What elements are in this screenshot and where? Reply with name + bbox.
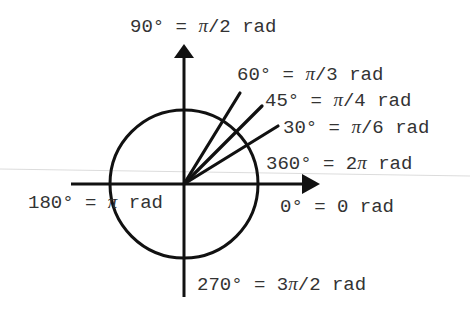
label-45-degrees: 45° = π/4 rad: [265, 90, 411, 111]
label-180-degrees: 180° = π rad: [28, 192, 163, 213]
unit-circle-diagram: 90° = π/2 rad 60° = π/3 rad 45° = π/4 ra…: [0, 0, 470, 312]
label-0-degrees: 0° = 0 rad: [280, 198, 394, 217]
x-axis-arrowhead-icon: [302, 174, 320, 194]
label-90-degrees: 90° = π/2 rad: [130, 16, 276, 37]
label-30-degrees: 30° = π/6 rad: [283, 117, 429, 138]
ray-30-degrees: [184, 126, 278, 184]
label-360-degrees: 360° = 2π rad: [266, 153, 412, 174]
label-60-degrees: 60° = π/3 rad: [237, 64, 383, 85]
label-270-degrees: 270° = 3π/2 rad: [197, 274, 366, 295]
y-axis-arrowhead-icon: [174, 44, 194, 58]
